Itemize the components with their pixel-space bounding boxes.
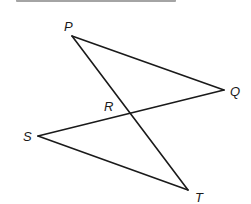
segment-pq	[72, 36, 224, 90]
geometry-figure: P Q R S T	[0, 0, 251, 204]
label-p: P	[64, 19, 73, 34]
segment-qs	[38, 90, 224, 136]
label-t: T	[195, 190, 204, 204]
label-s: S	[23, 129, 32, 144]
label-q: Q	[230, 84, 240, 99]
label-r: R	[104, 99, 113, 114]
segment-st	[38, 136, 188, 190]
